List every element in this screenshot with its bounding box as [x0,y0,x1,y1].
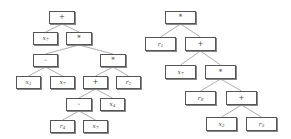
tree-edge [113,67,129,76]
node-label: x2 [219,121,225,128]
operator-node: + [49,11,75,24]
tree-edge [79,89,96,98]
tree-edge [222,105,242,117]
tree-edge [96,89,113,98]
operand-node: x7 [83,120,108,133]
tree-edge [46,67,63,76]
operator-node: - [33,54,58,67]
tree-edge [161,24,181,37]
tree-edge [46,45,80,54]
node-label: - [78,101,80,108]
node-label: r4 [60,123,65,130]
node-label: * [77,35,81,42]
node-label: x7 [60,79,66,86]
operator-node: - [66,98,92,111]
node-label: r8 [198,95,203,102]
operand-node: r3 [246,117,277,131]
operator-node: * [165,11,196,24]
operand-node: x7 [165,65,196,79]
operand-node: r1 [145,37,176,51]
node-label: - [44,57,46,64]
operator-node: + [185,37,216,51]
tree-edge [201,51,221,65]
tree-edge [63,111,80,120]
operand-node: x7 [50,76,75,89]
operand-node: r4 [50,120,75,133]
operand-node: x2 [206,117,237,131]
operator-node: + [226,91,257,105]
node-label: * [179,14,183,21]
node-label: x7 [93,123,99,130]
node-label: + [93,79,99,86]
tree-edge [96,67,114,76]
tree-edge [62,24,79,32]
node-label: r1 [158,41,163,48]
node-label: + [59,14,65,21]
node-label: r2 [126,79,131,86]
node-label: r3 [259,121,264,128]
tree-edge [79,45,113,54]
node-label: x7 [43,35,49,42]
node-label: * [219,69,223,76]
node-label: x7 [178,69,184,76]
tree-edge [181,51,201,65]
operand-node: x4 [100,98,125,111]
tree-edge [46,24,63,32]
tree-edge [201,79,221,91]
operand-node: x7 [33,32,58,45]
tree-edge [242,105,262,117]
tree-edge [221,79,242,91]
operator-node: * [66,32,92,45]
operator-node: * [100,54,126,67]
operand-node: r8 [185,91,216,105]
tree-edge [29,67,46,76]
tree-edge [79,111,96,120]
operator-node: + [83,76,108,89]
operand-node: r2 [116,76,141,89]
node-label: x1 [26,79,32,86]
node-label: x4 [110,101,116,108]
node-label: * [111,57,115,64]
node-label: + [239,95,245,102]
tree-edge [181,24,201,37]
operand-node: x1 [16,76,41,89]
operator-node: * [205,65,236,79]
node-label: + [198,41,204,48]
